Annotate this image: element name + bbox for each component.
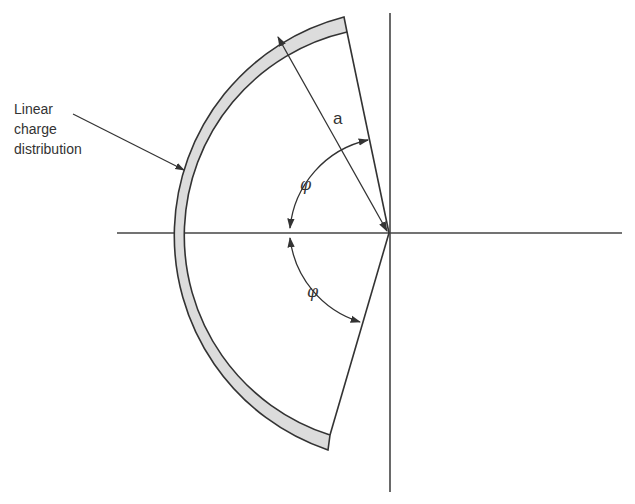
radius-arrow [278, 37, 387, 231]
upper-radial-line [347, 32, 389, 233]
charge-label-line3: distribution [14, 141, 82, 157]
charge-label-line2: charge [14, 121, 57, 137]
upper-angle-label: φ [300, 175, 312, 194]
charge-label-pointer [73, 114, 184, 170]
lower-angle-label: φ [307, 282, 319, 301]
charge-label-line1: Linear [14, 101, 53, 117]
lower-radial-line [330, 233, 389, 435]
lower-angle-arc [290, 238, 360, 322]
charge-arc-diagram: a φ φ Linear charge distribution [0, 0, 635, 504]
radius-label: a [333, 109, 343, 128]
